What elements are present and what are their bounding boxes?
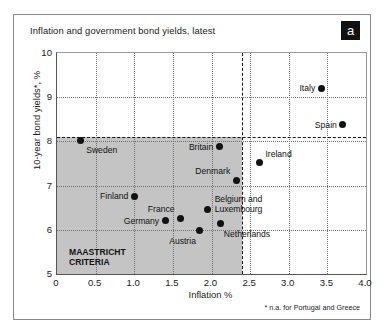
y-tick-label: 10 xyxy=(41,47,52,58)
data-point-label: Finland xyxy=(100,191,128,201)
data-point-label: Ireland xyxy=(265,149,291,159)
gridline-vertical xyxy=(212,53,213,274)
x-tick-label: 1.0 xyxy=(127,277,140,288)
panel-badge: a xyxy=(341,21,360,40)
data-point xyxy=(318,85,325,92)
maastricht-criteria-line-1: MAASTRICHT xyxy=(69,247,126,258)
y-axis-label: 10-year bond yields*, % xyxy=(31,51,42,191)
data-point-label: Netherlands xyxy=(224,229,270,239)
maastricht-criteria-label: MAASTRICHTCRITERIA xyxy=(69,247,126,268)
data-point xyxy=(216,143,223,150)
gridline-vertical xyxy=(327,53,328,274)
data-point-label: Germany xyxy=(124,216,159,226)
chart-footnote: * n.a. for Portugal and Greece xyxy=(265,303,361,312)
data-point xyxy=(77,137,84,144)
maastricht-yield-threshold-line xyxy=(57,137,366,138)
data-point-label: Denmark xyxy=(195,166,230,176)
y-tick-label: 9 xyxy=(47,91,52,102)
data-point xyxy=(131,193,138,200)
x-tick-label: 0.5 xyxy=(88,277,101,288)
data-point-label-line-2: Luxembourg xyxy=(215,205,263,215)
data-point xyxy=(256,159,263,166)
plot-area: MAASTRICHTCRITERIASwedenFinlandGermanyFr… xyxy=(56,52,367,275)
chart-title: Inflation and government bond yields, la… xyxy=(30,25,215,36)
gridline-vertical xyxy=(96,53,97,274)
maastricht-inflation-threshold-line xyxy=(242,53,243,274)
y-tick-label: 6 xyxy=(47,223,52,234)
gridline-vertical xyxy=(250,53,251,274)
data-point-label: Spain xyxy=(315,120,337,130)
data-point-label: Sweden xyxy=(86,145,117,155)
y-tick-label: 5 xyxy=(47,268,52,279)
data-point xyxy=(233,177,240,184)
x-tick-label: 3.0 xyxy=(281,277,294,288)
x-tick-label: 0 xyxy=(53,277,58,288)
data-point xyxy=(339,121,346,128)
plot-inner: MAASTRICHTCRITERIASwedenFinlandGermanyFr… xyxy=(57,53,366,274)
y-tick-label: 7 xyxy=(47,179,52,190)
data-point-label: Belgium andLuxembourg xyxy=(215,195,263,214)
maastricht-criteria-line-2: CRITERIA xyxy=(69,257,126,268)
data-point-label: France xyxy=(148,204,175,214)
x-tick-label: 4.0 xyxy=(358,277,371,288)
gridline-vertical xyxy=(289,53,290,274)
data-point-label: Austria xyxy=(169,236,196,246)
gridline-vertical xyxy=(134,53,135,274)
x-tick-label: 3.5 xyxy=(320,277,333,288)
data-point-label: Italy xyxy=(299,83,315,93)
y-tick-label: 8 xyxy=(47,135,52,146)
x-axis-label: Inflation % xyxy=(56,289,365,300)
chart-figure: Inflation and government bond yields, la… xyxy=(13,14,371,320)
x-tick-label: 1.5 xyxy=(165,277,178,288)
data-point-label: Britain xyxy=(189,142,213,152)
x-tick-label: 2.5 xyxy=(242,277,255,288)
x-tick-label: 2.0 xyxy=(204,277,217,288)
